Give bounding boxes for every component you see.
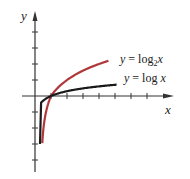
- chart-canvas: [0, 0, 190, 179]
- legend-log2-y: y: [120, 52, 125, 66]
- x-axis-label: x: [165, 103, 171, 116]
- legend-log10: y = log x: [124, 72, 166, 84]
- y-axis: [33, 11, 38, 172]
- legend-log10-x: x: [160, 71, 165, 85]
- legend-log10-y: y: [124, 71, 129, 85]
- y-axis-label: y: [21, 9, 27, 22]
- log2-curve: [42, 61, 108, 143]
- legend-log2-eq: = log: [128, 52, 153, 66]
- legend-log10-eq: = log: [132, 71, 157, 85]
- legend-log2-x: x: [157, 52, 162, 66]
- x-axis: [22, 94, 174, 99]
- legend-log2: y = log2x: [120, 53, 163, 68]
